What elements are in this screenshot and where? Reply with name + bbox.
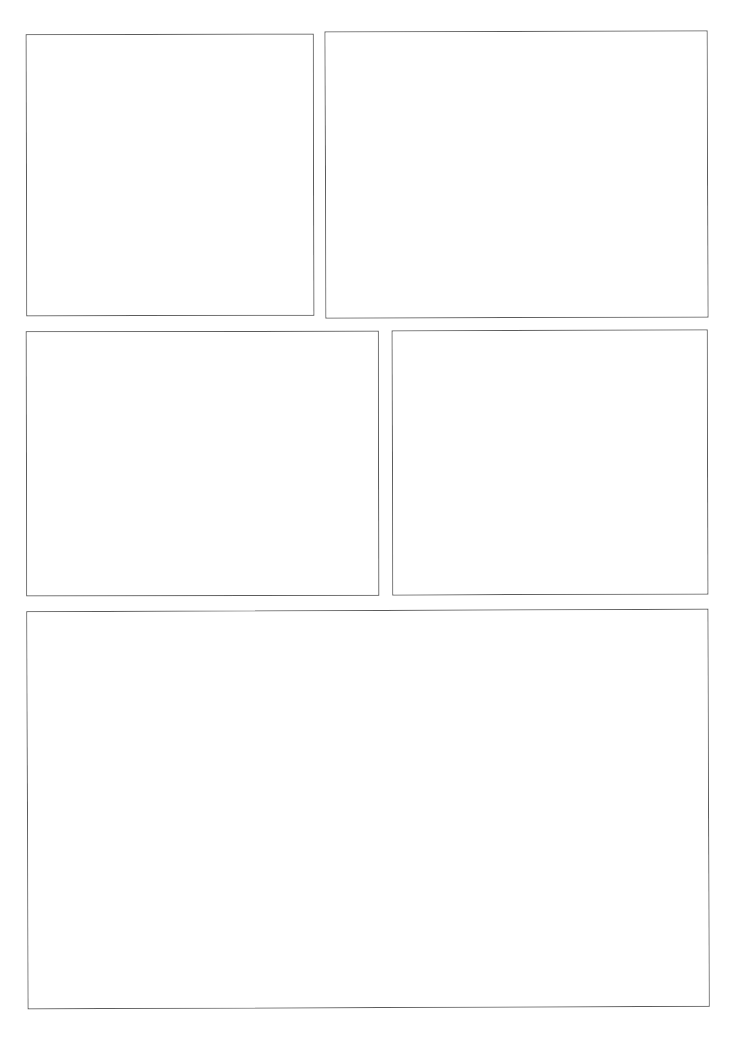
comic-panel-2-content [326,31,708,317]
comic-panel-5-content [27,610,708,1008]
comic-panel-3[interactable] [26,331,379,597]
comic-panel-1[interactable] [26,34,315,317]
comic-panel-4-content [393,331,708,595]
comic-panel-3-content [27,332,378,596]
comic-panel-2[interactable] [325,30,709,318]
comic-panel-4[interactable] [392,330,709,596]
comic-page-canvas [0,0,739,1040]
comic-panel-1-content [27,35,314,316]
comic-panel-5[interactable] [26,609,709,1009]
